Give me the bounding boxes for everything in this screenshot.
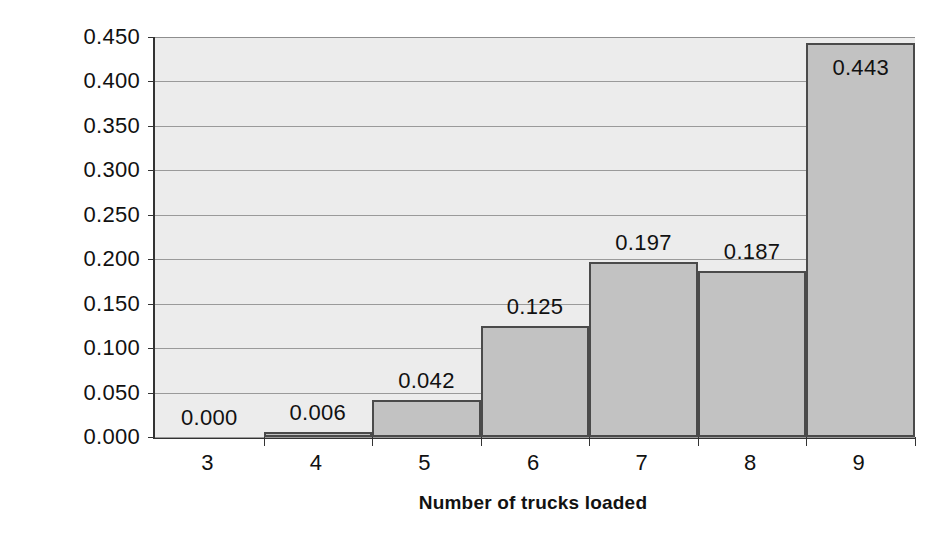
x-axis-tick-label: 3 (201, 450, 213, 476)
y-axis-tick (148, 81, 155, 82)
bar[interactable] (698, 271, 807, 437)
x-axis-tick (589, 437, 590, 446)
bar-value-label: 0.187 (698, 239, 807, 265)
plot-area: 0.0000.0060.0420.1250.1970.1870.443 (153, 37, 915, 439)
y-axis-tick-label: 0.450 (83, 24, 140, 50)
y-axis-tick (148, 348, 155, 349)
bar-value-label: 0.125 (481, 294, 590, 320)
x-axis-tick (915, 437, 916, 446)
y-axis-tick-label: 0.050 (83, 380, 140, 406)
bar-value-label: 0.000 (155, 405, 264, 431)
y-axis-tick (148, 393, 155, 394)
y-axis-tick (148, 170, 155, 171)
x-axis-tick-label: 4 (310, 450, 322, 476)
bar[interactable] (589, 262, 698, 437)
y-axis-tick-label: 0.150 (83, 291, 140, 317)
bar-slot: 0.443 (806, 37, 915, 437)
y-axis-tick-label: 0.300 (83, 157, 140, 183)
x-axis-tick-label: 5 (418, 450, 430, 476)
x-axis-title: Number of trucks loaded (153, 492, 913, 514)
bar[interactable] (481, 326, 590, 437)
y-axis-tick-labels: 0.0000.0500.1000.1500.2000.2500.3000.350… (44, 37, 148, 437)
bar[interactable] (372, 400, 481, 437)
bar-slot: 0.000 (155, 37, 264, 437)
x-axis-tick-label: 9 (853, 450, 865, 476)
bar[interactable] (806, 43, 915, 437)
y-axis-tick-label: 0.400 (83, 68, 140, 94)
y-axis-tick (148, 259, 155, 260)
bar-slot: 0.125 (481, 37, 590, 437)
y-axis-tick-label: 0.200 (83, 246, 140, 272)
bar-value-label: 0.042 (372, 368, 481, 394)
bar-slot: 0.006 (264, 37, 373, 437)
x-axis-tick (264, 437, 265, 446)
bar-value-label: 0.197 (589, 230, 698, 256)
chart-figure: Probability 0.0000.0500.1000.1500.2000.2… (0, 0, 933, 552)
x-axis-tick-label: 6 (527, 450, 539, 476)
bar-series: 0.0000.0060.0420.1250.1970.1870.443 (155, 37, 915, 437)
x-axis-tick-label: 8 (744, 450, 756, 476)
y-axis-tick (148, 215, 155, 216)
y-axis-tick-label: 0.350 (83, 113, 140, 139)
bar-slot: 0.042 (372, 37, 481, 437)
bar-value-label: 0.443 (806, 55, 915, 81)
y-axis-tick (148, 126, 155, 127)
x-axis-tick (372, 437, 373, 446)
y-axis-tick-label: 0.000 (83, 424, 140, 450)
gridline (155, 437, 915, 438)
x-axis-tick-label: 7 (635, 450, 647, 476)
y-axis-tick-label: 0.250 (83, 202, 140, 228)
bar[interactable] (264, 432, 373, 437)
bar-slot: 0.197 (589, 37, 698, 437)
bar-value-label: 0.006 (264, 400, 373, 426)
x-axis-tick (698, 437, 699, 446)
x-axis-tick (481, 437, 482, 446)
x-axis-tick-labels: 3456789 (153, 450, 913, 482)
clipped-caption (0, 541, 933, 552)
x-axis-tick (806, 437, 807, 446)
y-axis-tick-label: 0.100 (83, 335, 140, 361)
bar-slot: 0.187 (698, 37, 807, 437)
y-axis-tick (148, 37, 155, 38)
y-axis-tick (148, 437, 155, 438)
y-axis-tick (148, 304, 155, 305)
